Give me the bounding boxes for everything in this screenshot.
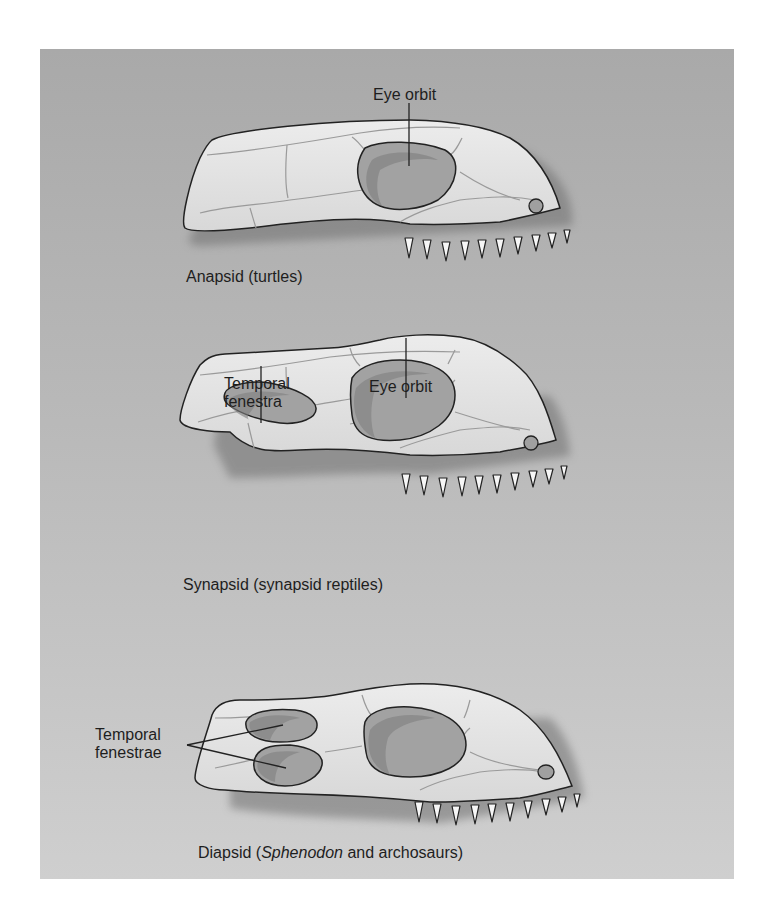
skull-illustrations [0, 0, 771, 914]
anapsid-skull [184, 103, 573, 261]
diapsid-caption-genus: Sphenodon [261, 844, 343, 861]
nostril [538, 765, 554, 779]
synapsid-skull [180, 335, 570, 497]
diapsid-skull [187, 684, 584, 825]
synapsid-temporal-label-line2: fenestra [224, 392, 282, 411]
nostril [529, 199, 543, 213]
diapsid-temporal-label-line2: fenestrae [95, 743, 162, 762]
synapsid-caption: Synapsid (synapsid reptiles) [183, 575, 383, 594]
anapsid-eye-orbit-label: Eye orbit [373, 85, 436, 104]
diapsid-caption: Diapsid (Sphenodon and archosaurs) [198, 843, 463, 862]
diapsid-temporal-label-line1: Temporal [95, 725, 161, 744]
teeth [405, 230, 570, 261]
nostril [524, 436, 538, 450]
anapsid-caption: Anapsid (turtles) [186, 267, 303, 286]
synapsid-eye-orbit-label: Eye orbit [369, 377, 432, 396]
synapsid-temporal-label-line1: Temporal [224, 374, 290, 393]
diapsid-caption-prefix: Diapsid ( [198, 844, 261, 861]
diapsid-caption-suffix: and archosaurs) [343, 844, 463, 861]
